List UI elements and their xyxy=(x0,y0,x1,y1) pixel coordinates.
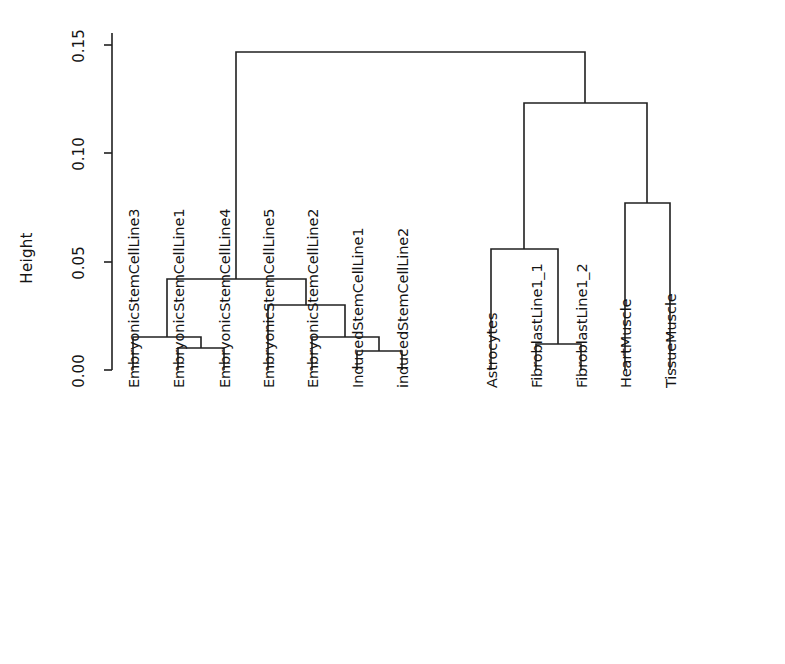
dendrogram-figure: Height 0.00 0.05 0.10 0.15 xyxy=(0,0,785,664)
leaf-label-0: EmbryonicStemCellLine3 xyxy=(126,209,142,388)
leaf-label-9: FibroblastLine1_2 xyxy=(574,263,590,388)
leaf-label-1: EmbryonicStemCellLine1 xyxy=(171,209,187,388)
leaf-label-8: FibroblastLine1_1 xyxy=(529,263,545,388)
leaf-label-5: InducedStemCellLine1 xyxy=(350,228,366,388)
leaf-label-10: HeartMuscle xyxy=(618,299,634,388)
leaf-label-3: EmbryonicStemCellLine5 xyxy=(261,209,277,388)
leaf-label-7: Astrocytes xyxy=(484,313,500,388)
y-axis xyxy=(104,33,112,370)
leaf-label-4: EmbryonicStemCellLine2 xyxy=(305,209,321,388)
leaf-label-6: inducedStemCellLine2 xyxy=(395,228,411,388)
leaf-label-2: EmbryonicStemCellLine4 xyxy=(217,209,233,388)
leaf-label-11: TissueMuscle xyxy=(663,293,679,388)
